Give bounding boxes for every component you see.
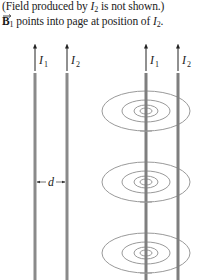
diagram-canvas: I 1 I 2 d (0, 0, 202, 280)
wire-2 (66, 73, 69, 280)
vector-arrow-icon (3, 15, 11, 18)
wire-1 (34, 73, 37, 280)
left-diagram: I 1 I 2 d (34, 46, 81, 280)
wire-1-label-sub: 1 (155, 60, 159, 69)
wire-2-label-sub: 2 (76, 60, 80, 69)
wire-1 (145, 73, 148, 280)
right-diagram: I 1 I 2 (102, 46, 191, 280)
separation-label: d (48, 175, 55, 189)
wire-2-label-sub: 2 (187, 60, 191, 69)
wire-1-label-sub: 1 (44, 60, 48, 69)
wire-2 (177, 73, 180, 280)
